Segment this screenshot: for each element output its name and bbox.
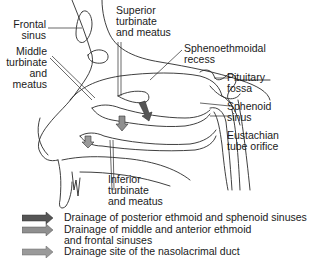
medium-arrow-icon (22, 224, 54, 236)
legend-text: Drainage of middle and anterior ethmoid … (64, 224, 251, 246)
label-middle-turbinate: Middle turbinate and meatus (0, 46, 47, 90)
label-eustachian-tube: Eustachian tube orifice (227, 130, 279, 152)
label-line: fossa (227, 83, 265, 94)
label-sphenoid-sinus: Sphenoid sinus (227, 101, 271, 123)
legend-text: Drainage of posterior ethmoid and spheno… (64, 212, 307, 223)
label-line: sinus (227, 112, 271, 123)
dark-arrow-icon (22, 212, 54, 224)
label-line: and meatus (108, 196, 163, 207)
inferior-turbinate (80, 130, 216, 145)
label-inferior-turbinate: Inferior turbinate and meatus (108, 174, 163, 207)
label-superior-turbinate: Superior turbinate and meatus (116, 5, 171, 38)
legend-line: Drainage site of the nasolacrimal duct (64, 246, 240, 257)
legend-item-middle: Drainage of middle and anterior ethmoid … (22, 224, 251, 246)
label-frontal-sinus: Frontal sinus (8, 19, 46, 41)
posterior-drainage-arrow (139, 101, 152, 121)
middle-turbinate (92, 105, 210, 118)
label-pituitary-fossa: Pituitary fossa (227, 72, 265, 94)
label-line: and meatus (116, 27, 171, 38)
nasolacrimal-drainage-arrow (82, 136, 94, 148)
middle-drainage-arrow (116, 116, 128, 131)
label-line: recess (184, 54, 266, 65)
legend-line: Drainage of posterior ethmoid and spheno… (64, 212, 307, 223)
label-line: sinus (8, 30, 46, 41)
label-line: tube orifice (227, 141, 279, 152)
label-sphenoethmoidal-recess: Sphenoethmoidal recess (184, 43, 266, 65)
light-arrow-icon (22, 246, 54, 258)
label-line: meatus (0, 79, 47, 90)
legend-text: Drainage site of the nasolacrimal duct (64, 246, 240, 257)
legend-item-nasolacrimal: Drainage site of the nasolacrimal duct (22, 246, 240, 258)
